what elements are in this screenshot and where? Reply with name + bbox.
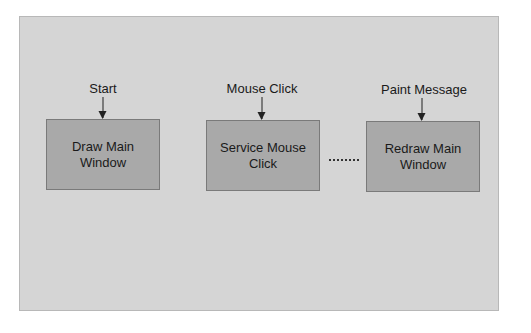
trigger-label-start: Start [89,81,116,96]
dotted-connector [329,159,359,161]
trigger-label-mouse-click: Mouse Click [227,81,298,96]
arrow-down-icon [422,98,423,120]
trigger-label-paint-message: Paint Message [381,82,467,97]
node-label: Draw Main Window [53,139,153,171]
node-label: Redraw Main Window [373,141,473,173]
arrow-down-icon [103,97,104,118]
node-redraw-main-window: Redraw Main Window [366,121,480,192]
node-draw-main-window: Draw Main Window [46,119,160,190]
arrow-down-icon [262,97,263,119]
node-service-mouse-click: Service Mouse Click [206,120,320,191]
node-label: Service Mouse Click [213,140,313,172]
